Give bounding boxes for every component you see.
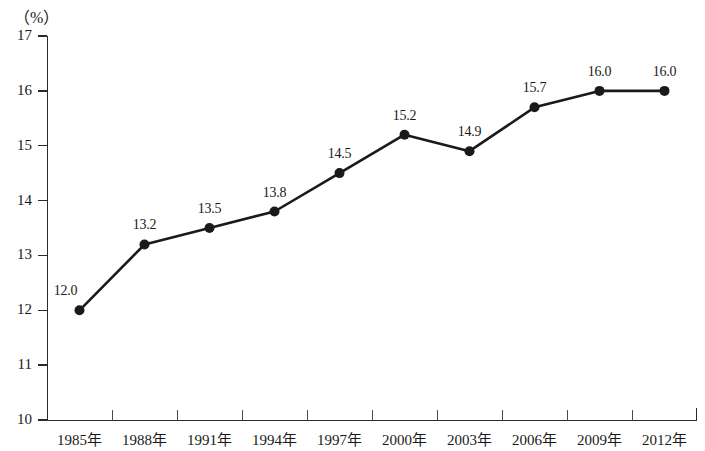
data-point-marker (660, 86, 670, 96)
data-point-label: 15.2 (393, 108, 416, 124)
series-line (80, 91, 665, 310)
data-point-label: 12.0 (54, 283, 77, 299)
data-point-marker (595, 86, 605, 96)
data-point-marker (530, 102, 540, 112)
data-point-marker (270, 207, 280, 217)
data-point-label: 14.5 (328, 146, 351, 162)
data-point-label: 15.7 (523, 80, 546, 96)
data-point-marker (465, 146, 475, 156)
data-point-marker (400, 130, 410, 140)
data-point-label: 14.9 (458, 124, 481, 140)
data-point-marker (205, 223, 215, 233)
line-chart: （%） 1716151413121110 1985年1988年1991年1994… (0, 0, 705, 451)
series-markers (75, 86, 670, 315)
data-point-label: 16.0 (588, 64, 611, 80)
data-point-marker (335, 168, 345, 178)
data-point-label: 13.2 (133, 217, 156, 233)
data-point-marker (75, 305, 85, 315)
data-point-label: 16.0 (653, 64, 676, 80)
data-point-marker (140, 240, 150, 250)
data-point-label: 13.5 (198, 201, 221, 217)
data-point-label: 13.8 (263, 185, 286, 201)
